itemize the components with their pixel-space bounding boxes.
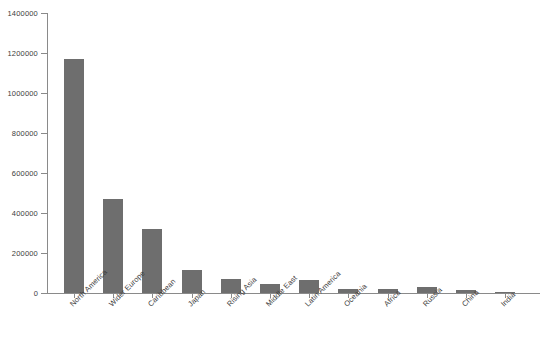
y-axis-tick-label: 200000 [0,249,38,258]
y-axis-tick-label: 1000000 [0,89,38,98]
y-axis-tick-label: 1200000 [0,49,38,58]
bars-container [47,13,540,293]
y-axis-tick-label: 1400000 [0,9,38,18]
bar [142,229,162,293]
bar [64,59,84,293]
y-axis-tick-label: 600000 [0,169,38,178]
y-axis-tick-label: 800000 [0,129,38,138]
bar [103,199,123,293]
y-axis-tick-label: 0 [0,289,38,298]
y-axis-tick [41,293,47,294]
bar-chart: 0200000400000600000800000100000012000001… [0,0,553,357]
y-axis-tick-label: 400000 [0,209,38,218]
